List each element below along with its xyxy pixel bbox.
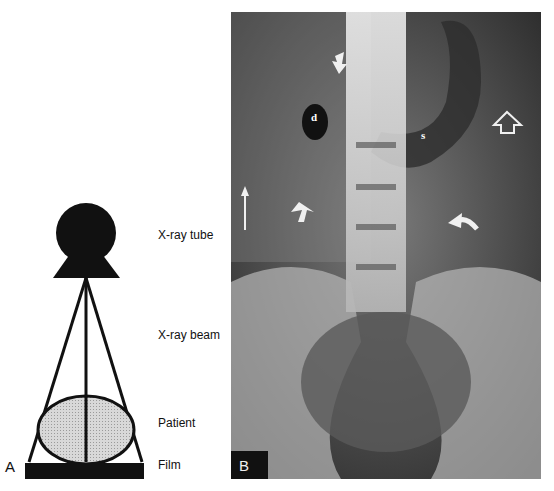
panel-letter-a: A [5,458,15,475]
label-patient: Patient [158,416,195,430]
abdominal-radiograph: d s B [231,12,541,479]
duodenum-label: d [311,111,317,123]
film-bar [25,463,144,479]
panel-letter-b: B [231,451,268,479]
label-xray-beam: X-ray beam [158,328,220,342]
radiograph-image [231,12,541,479]
label-xray-tube: X-ray tube [158,228,213,242]
stomach-label: s [421,129,425,141]
label-film: Film [158,458,181,472]
xray-schematic-panel: X-ray tube X-ray beam Patient Film A [0,190,230,491]
